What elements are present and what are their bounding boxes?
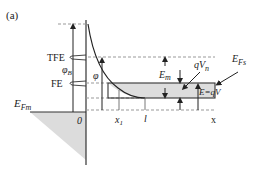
zero-label: 0 (77, 115, 82, 126)
em-label: Em (158, 69, 171, 82)
efm-label: EFm (13, 97, 32, 112)
tfe-label: TFE (47, 52, 65, 63)
efs-pointer (218, 72, 238, 84)
panel-label: (a) (6, 9, 19, 22)
phi-label: φ (93, 70, 99, 81)
l-label: l (144, 113, 147, 124)
fe-lobe (70, 81, 86, 86)
tfe-lobe (70, 55, 86, 60)
efs-label: EFs (231, 53, 246, 67)
eqv-label: E=qV (198, 87, 222, 97)
fe-label: FE (51, 78, 63, 89)
qvn-label: qVn (194, 59, 209, 73)
phi-b-label: φB (62, 64, 73, 77)
x1-label: x1 (114, 114, 123, 127)
x-axis-label: x (211, 114, 216, 125)
band-diagram: (a) TFE FE φB φ EFm 0 x1 l x Em qVn EFs … (0, 0, 263, 173)
